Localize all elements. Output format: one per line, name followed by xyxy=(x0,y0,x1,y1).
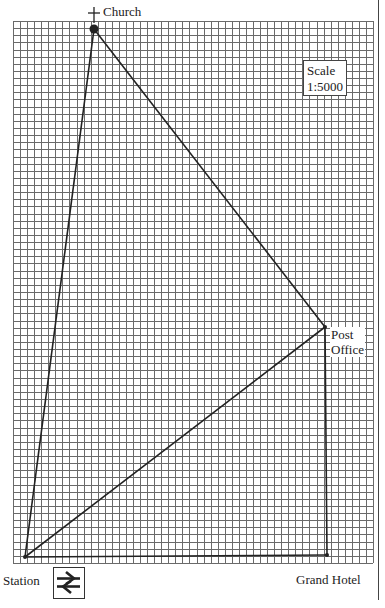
church-label: Church xyxy=(103,4,141,19)
grid-paper xyxy=(13,21,374,564)
station-label: Station xyxy=(3,573,40,588)
church-cross-icon xyxy=(88,7,100,23)
post-office-label-line2: Office xyxy=(331,342,364,357)
scale-title: Scale xyxy=(307,63,346,79)
church-marker xyxy=(90,25,99,34)
station-marker xyxy=(23,555,27,559)
grand-hotel-marker xyxy=(325,553,329,557)
scale-box: Scale 1:5000 xyxy=(303,60,347,96)
post-office-label: Post Office xyxy=(330,327,365,357)
rail-symbol-icon xyxy=(53,567,85,599)
post-office-label-line1: Post xyxy=(331,327,364,342)
scale-value: 1:5000 xyxy=(307,79,346,95)
post-office-marker xyxy=(323,325,327,329)
grand-hotel-label: Grand Hotel xyxy=(296,572,361,587)
